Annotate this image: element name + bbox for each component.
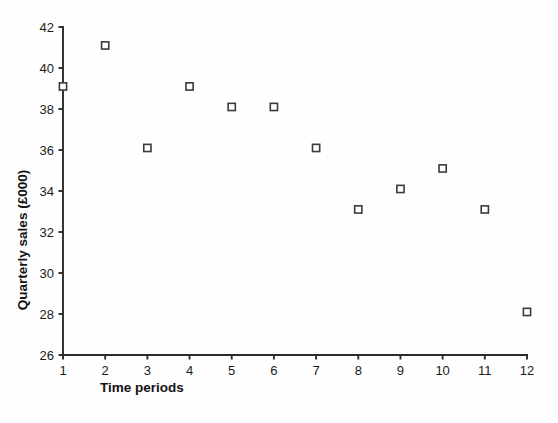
y-tick-label: 38: [40, 102, 54, 117]
x-tick-label: 8: [355, 363, 362, 378]
data-point-marker: [355, 206, 362, 213]
y-tick-label: 28: [40, 307, 54, 322]
x-axis-ticks: 123456789101112: [59, 355, 534, 378]
x-tick-label: 11: [478, 363, 492, 378]
x-tick-label: 6: [270, 363, 277, 378]
data-point-marker: [270, 103, 277, 110]
data-point-marker: [102, 42, 109, 49]
x-tick-label: 5: [228, 363, 235, 378]
x-tick-label: 12: [520, 363, 534, 378]
x-tick-label: 7: [312, 363, 319, 378]
axes-group: [63, 27, 527, 355]
x-tick-label: 10: [435, 363, 449, 378]
y-axis-ticks: 262830323436384042: [40, 20, 63, 363]
scatter-chart-figure: 262830323436384042123456789101112Time pe…: [0, 0, 558, 423]
y-tick-label: 40: [40, 61, 54, 76]
data-point-marker: [186, 83, 193, 90]
data-point-marker: [312, 144, 319, 151]
axis-spines: [63, 27, 527, 355]
plot-canvas: 262830323436384042123456789101112Time pe…: [0, 0, 558, 423]
data-point-marker: [228, 103, 235, 110]
y-tick-label: 42: [40, 20, 54, 35]
x-tick-label: 3: [144, 363, 151, 378]
y-tick-label: 30: [40, 266, 54, 281]
x-tick-label: 4: [186, 363, 193, 378]
data-point-marker: [523, 308, 530, 315]
data-point-marker: [144, 144, 151, 151]
y-tick-label: 32: [40, 225, 54, 240]
y-tick-label: 36: [40, 143, 54, 158]
x-tick-label: 2: [102, 363, 109, 378]
x-axis-title: Time periods: [100, 380, 184, 395]
data-point-marker: [439, 165, 446, 172]
data-point-marker: [59, 83, 66, 90]
x-tick-label: 9: [397, 363, 404, 378]
y-tick-label: 34: [40, 184, 54, 199]
data-points-group: [59, 42, 530, 316]
y-axis-title: Quarterly sales (£000): [15, 170, 30, 310]
y-tick-label: 26: [40, 348, 54, 363]
x-tick-label: 1: [59, 363, 66, 378]
data-point-marker: [481, 206, 488, 213]
data-point-marker: [397, 185, 404, 192]
